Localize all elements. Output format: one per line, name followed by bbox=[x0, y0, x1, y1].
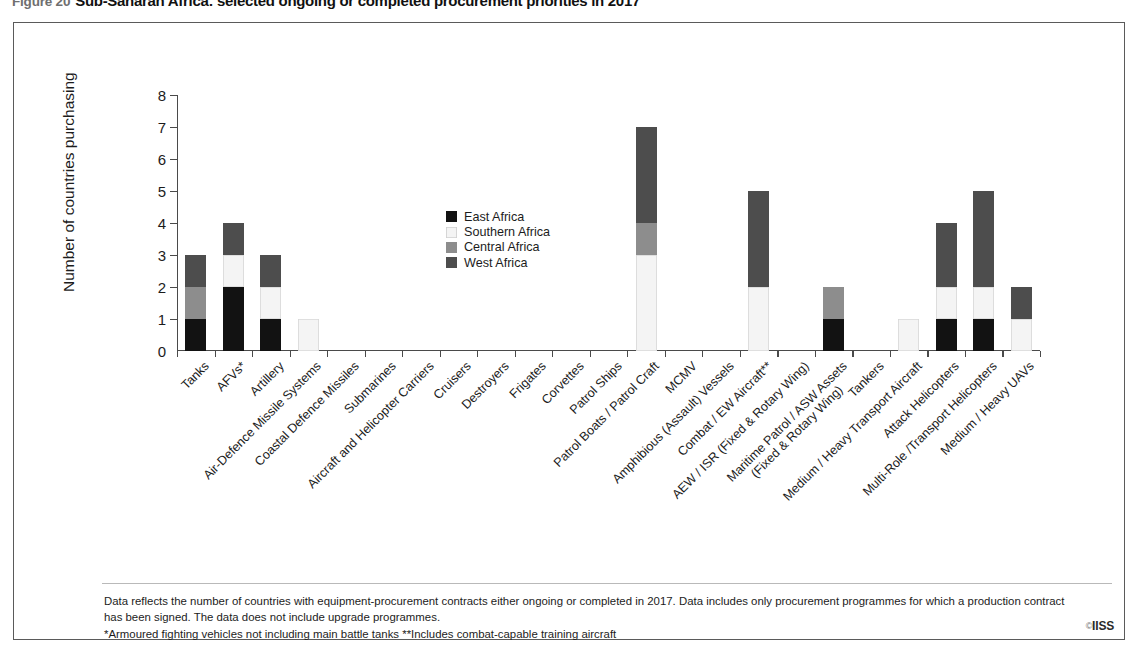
bar-segment[interactable] bbox=[823, 287, 844, 319]
x-axis-tick bbox=[252, 351, 253, 357]
chart-panel: Number of countries purchasing 012345678… bbox=[13, 22, 1125, 640]
bar-segment[interactable] bbox=[936, 287, 957, 319]
x-axis-tick bbox=[477, 351, 478, 357]
bar-segment[interactable] bbox=[298, 319, 319, 351]
iiss-credit: ©IISS bbox=[1086, 619, 1114, 633]
bar-segment[interactable] bbox=[973, 191, 994, 287]
x-axis-tick bbox=[552, 351, 553, 357]
y-axis-tick bbox=[170, 255, 177, 256]
bar-segment[interactable] bbox=[223, 255, 244, 287]
bar-stack[interactable] bbox=[1011, 287, 1032, 351]
legend-item[interactable]: Central Africa bbox=[446, 240, 550, 255]
bar-segment[interactable] bbox=[898, 319, 919, 351]
legend-swatch-icon bbox=[446, 242, 457, 253]
y-axis-tick-label: 2 bbox=[142, 279, 166, 296]
x-axis-tick bbox=[177, 351, 178, 357]
bar-stack[interactable] bbox=[936, 223, 957, 351]
footnote-line-1: Data reflects the number of countries wi… bbox=[104, 593, 1104, 609]
bar-segment[interactable] bbox=[636, 255, 657, 351]
bar-segment[interactable] bbox=[185, 319, 206, 351]
legend-label: Southern Africa bbox=[464, 225, 550, 239]
x-axis-tick bbox=[365, 351, 366, 357]
y-axis-tick-label: 3 bbox=[142, 247, 166, 264]
y-axis-title: Number of countries purchasing bbox=[60, 57, 78, 307]
bar-segment[interactable] bbox=[1011, 319, 1032, 351]
bar-stack[interactable] bbox=[298, 319, 319, 351]
legend-swatch-icon bbox=[446, 257, 457, 268]
legend-label: Central Africa bbox=[464, 240, 540, 254]
y-axis-tick-label: 4 bbox=[142, 215, 166, 232]
legend-item[interactable]: Southern Africa bbox=[446, 224, 550, 239]
legend-label: West Africa bbox=[464, 256, 527, 270]
x-axis-tick bbox=[402, 351, 403, 357]
bar-stack[interactable] bbox=[898, 319, 919, 351]
x-axis-tick bbox=[327, 351, 328, 357]
legend-swatch-icon bbox=[446, 227, 457, 238]
bar-stack[interactable] bbox=[260, 255, 281, 351]
x-axis-category-label-line: Tanks bbox=[178, 359, 211, 392]
bar-segment[interactable] bbox=[823, 319, 844, 351]
bar-segment[interactable] bbox=[936, 319, 957, 351]
x-axis-tick bbox=[590, 351, 591, 357]
bar-segment[interactable] bbox=[223, 287, 244, 351]
bar-stack[interactable] bbox=[636, 127, 657, 351]
y-axis-tick bbox=[170, 287, 177, 288]
bar-segment[interactable] bbox=[260, 319, 281, 351]
y-axis-tick bbox=[170, 223, 177, 224]
bar-segment[interactable] bbox=[260, 287, 281, 319]
x-axis-tick bbox=[1040, 351, 1041, 357]
bar-segment[interactable] bbox=[185, 255, 206, 287]
bar-segment[interactable] bbox=[260, 255, 281, 287]
bar-segment[interactable] bbox=[936, 223, 957, 287]
page-title: Sub-Saharan Africa: selected ongoing or … bbox=[75, 0, 640, 9]
chart-legend: East AfricaSouthern AfricaCentral Africa… bbox=[446, 209, 550, 271]
y-axis-tick bbox=[170, 95, 177, 96]
bar-stack[interactable] bbox=[223, 223, 244, 351]
x-axis-category-label: Tanks bbox=[178, 359, 211, 392]
y-axis-tick-labels: 012345678 bbox=[142, 95, 166, 351]
bar-stack[interactable] bbox=[748, 191, 769, 351]
bar-stack[interactable] bbox=[973, 191, 994, 351]
y-axis-tick-label: 7 bbox=[142, 119, 166, 136]
legend-item[interactable]: East Africa bbox=[446, 209, 550, 224]
x-axis-tick bbox=[852, 351, 853, 357]
credit-label: IISS bbox=[1092, 619, 1114, 633]
legend-item[interactable]: West Africa bbox=[446, 255, 550, 270]
y-axis-title-text: Number of countries purchasing bbox=[60, 72, 77, 292]
bar-segment[interactable] bbox=[636, 127, 657, 223]
x-axis-tick bbox=[815, 351, 816, 357]
figure-title-bar: Figure 20Sub-Saharan Africa: selected on… bbox=[12, 0, 640, 14]
footnote-line-3: *Armoured fighting vehicles not includin… bbox=[104, 626, 1104, 642]
x-axis-tick bbox=[890, 351, 891, 357]
x-axis-tick bbox=[702, 351, 703, 357]
x-axis-category-label-line: AFVs* bbox=[214, 359, 249, 394]
x-axis-tick bbox=[1002, 351, 1003, 357]
y-axis-tick bbox=[170, 191, 177, 192]
legend-swatch-icon bbox=[446, 211, 457, 222]
bar-series-container bbox=[177, 95, 1040, 351]
figure-root: Figure 20Sub-Saharan Africa: selected on… bbox=[0, 0, 1137, 657]
x-axis-tick bbox=[777, 351, 778, 357]
figure-number: Figure 20 bbox=[12, 0, 70, 9]
bar-segment[interactable] bbox=[748, 191, 769, 287]
y-axis-tick bbox=[170, 319, 177, 320]
x-axis-tick bbox=[440, 351, 441, 357]
x-axis-tick bbox=[515, 351, 516, 357]
bar-segment[interactable] bbox=[223, 223, 244, 255]
x-axis-tick bbox=[740, 351, 741, 357]
bar-stack[interactable] bbox=[185, 255, 206, 351]
bar-segment[interactable] bbox=[636, 223, 657, 255]
y-axis-tick-label: 8 bbox=[142, 87, 166, 104]
bar-segment[interactable] bbox=[1011, 287, 1032, 319]
y-axis-tick-label: 6 bbox=[142, 151, 166, 168]
bar-segment[interactable] bbox=[185, 287, 206, 319]
footnote-divider bbox=[102, 583, 1112, 584]
x-axis-tick bbox=[927, 351, 928, 357]
x-axis-category-label: AFVs* bbox=[214, 359, 249, 394]
bar-segment[interactable] bbox=[973, 319, 994, 351]
bar-segment[interactable] bbox=[973, 287, 994, 319]
bar-stack[interactable] bbox=[823, 287, 844, 351]
x-axis-tick bbox=[215, 351, 216, 357]
y-axis-tick bbox=[170, 159, 177, 160]
bar-segment[interactable] bbox=[748, 287, 769, 351]
